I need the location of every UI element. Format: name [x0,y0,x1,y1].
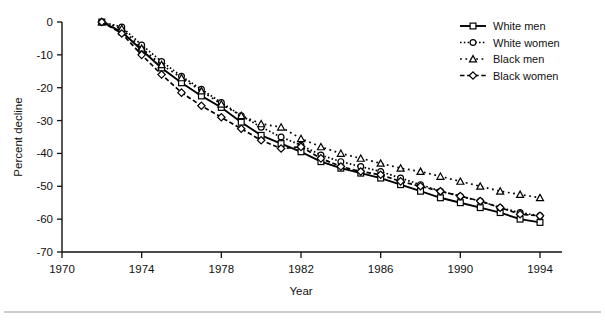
marker-triangle [337,150,344,156]
marker-triangle [470,56,477,62]
x-tick-label: 1982 [288,263,314,275]
legend-label: Black women [493,70,558,82]
marker-diamond [437,188,444,195]
marker-triangle [278,124,285,130]
marker-square [470,23,476,29]
marker-triangle [457,178,464,184]
series-path [102,22,540,216]
y-tick-label: -50 [36,180,53,192]
marker-diamond [238,125,245,132]
series-white-men [99,19,543,225]
marker-triangle [417,168,424,174]
marker-triangle [298,135,305,141]
y-tick-label: -10 [36,49,53,61]
marker-diamond [158,71,165,78]
x-axis-title: Year [289,285,312,297]
x-tick-label: 1974 [129,263,155,275]
x-tick-label: 1990 [448,263,474,275]
y-axis-title: Percent decline [12,97,24,176]
marker-diamond [198,102,205,109]
y-tick-label: -60 [36,213,53,225]
y-tick-label: 0 [47,16,53,28]
legend-label: White women [493,37,560,49]
series-black-men [98,19,543,201]
series-path [102,22,540,222]
y-tick-label: -70 [36,246,53,258]
legend-item-white-women[interactable]: White women [460,37,560,49]
x-tick-label: 1994 [527,263,553,275]
marker-triangle [537,194,544,200]
chart-legend: White menWhite womenBlack menBlack women [460,20,560,82]
chart-figure: 0-10-20-30-40-50-60-70197019741978198219… [0,0,605,325]
marker-diamond [469,72,476,79]
series-path [102,22,540,198]
marker-diamond [536,212,543,219]
marker-triangle [357,155,364,161]
y-tick-label: -40 [36,147,53,159]
chart-svg: 0-10-20-30-40-50-60-70197019741978198219… [0,0,605,325]
legend-label: White men [493,20,546,32]
marker-circle [278,134,284,140]
series-path [102,22,540,216]
legend-item-black-women[interactable]: Black women [460,70,558,82]
marker-triangle [517,191,524,197]
marker-triangle [437,173,444,179]
legend-item-black-men[interactable]: Black men [460,53,544,65]
legend-item-white-men[interactable]: White men [460,20,546,32]
marker-diamond [218,114,225,121]
x-tick-label: 1986 [368,263,394,275]
legend-label: Black men [493,53,544,65]
marker-triangle [258,120,265,126]
marker-diamond [457,192,464,199]
marker-circle [470,40,476,46]
marker-diamond [477,197,484,204]
marker-triangle [317,143,324,149]
x-tick-label: 1978 [209,263,235,275]
y-tick-label: -20 [36,82,53,94]
y-tick-label: -30 [36,115,53,127]
x-tick-label: 1970 [49,263,75,275]
